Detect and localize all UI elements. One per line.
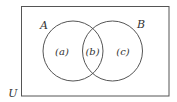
universe-label: U [8, 87, 18, 100]
venn-diagram: A B U (a) (b) (c) [0, 0, 177, 102]
region-b-label: (b) [85, 46, 99, 57]
set-b-label: B [136, 18, 145, 31]
region-c-label: (c) [116, 46, 130, 57]
set-a-label: A [39, 19, 48, 32]
region-a-label: (a) [55, 46, 69, 57]
